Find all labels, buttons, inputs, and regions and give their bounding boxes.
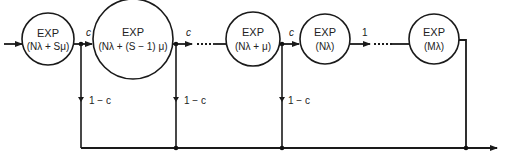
exp-node-1: EXP (Nλ + Sμ) <box>22 13 74 65</box>
node-3-title: EXP <box>242 26 264 38</box>
node-4-title: EXP <box>314 26 336 38</box>
node-3-rate: (Nλ + μ) <box>235 41 271 52</box>
junction-dot <box>280 146 285 151</box>
exp-node-2: EXP (Nλ + (S − 1) μ) <box>93 0 173 79</box>
node-4-rate: (Nλ) <box>316 41 335 52</box>
forward-prob-label: c <box>86 27 91 38</box>
forward-one-label: 1 <box>362 27 368 38</box>
down-arrow-icon <box>173 97 179 102</box>
junction-dot <box>174 146 179 151</box>
node-5-rate: (Mλ) <box>424 41 444 52</box>
junction-dot <box>464 146 469 151</box>
queueing-diagram: EXP (Nλ + Sμ) c 1 − c EXP (Nλ + (S − 1) … <box>0 0 507 158</box>
exit-prob-label: 1 − c <box>184 95 206 106</box>
node-1-rate: (Nλ + Sμ) <box>27 41 70 52</box>
exit-prob-label: 1 − c <box>89 95 111 106</box>
node-2-title: EXP <box>122 26 144 38</box>
exp-node-3: EXP (Nλ + μ) <box>226 12 280 66</box>
node-1-title: EXP <box>37 27 59 39</box>
exp-node-5: EXP (Mλ) <box>409 14 459 64</box>
final-output-line <box>459 40 466 148</box>
down-arrow-icon <box>78 97 84 102</box>
exit-prob-label: 1 − c <box>288 95 310 106</box>
node-5-title: EXP <box>423 26 445 38</box>
node-2-rate: (Nλ + (S − 1) μ) <box>98 41 167 52</box>
forward-prob-label: c <box>186 27 191 38</box>
forward-prob-label: c <box>289 27 294 38</box>
down-arrow-icon <box>279 97 285 102</box>
exp-node-4: EXP (Nλ) <box>300 14 350 64</box>
